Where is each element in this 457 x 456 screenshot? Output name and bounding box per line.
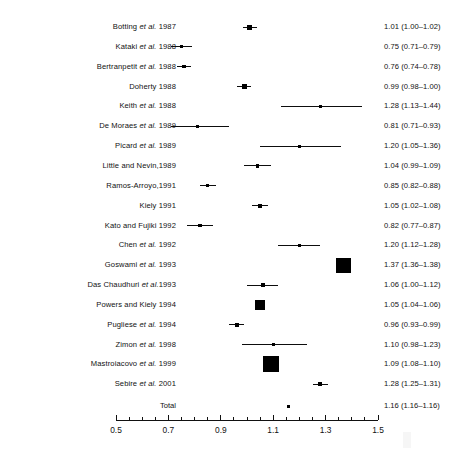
forest-row: Picard et al. 19891.20 (1.05–1.36) bbox=[0, 136, 457, 156]
study-label: Keith et al. 1988 bbox=[0, 96, 176, 116]
study-estimate-text: 0.81 (0.71–0.93) bbox=[384, 116, 441, 136]
x-axis-minor-tick bbox=[142, 417, 143, 420]
study-estimate-text: 0.99 (0.98–1.00) bbox=[384, 77, 441, 97]
x-axis-minor-tick bbox=[338, 417, 339, 420]
x-axis-line bbox=[116, 420, 378, 421]
x-axis-minor-tick bbox=[299, 417, 300, 420]
study-label: Kataki et al. 1988 bbox=[0, 37, 176, 57]
study-label: Das Chaudhuri et al.1993 bbox=[0, 275, 176, 295]
x-axis-tick-label: 1.1 bbox=[258, 425, 288, 435]
forest-row: Sebire et al. 20011.28 (1.25–1.31) bbox=[0, 374, 457, 394]
forest-row: Kataki et al. 19880.75 (0.71–0.79) bbox=[0, 37, 457, 57]
x-axis-major-tick bbox=[325, 415, 326, 420]
study-label: Mastroiacovo et al. 1999 bbox=[0, 354, 176, 374]
x-axis-minor-tick bbox=[233, 417, 234, 420]
x-axis-minor-tick bbox=[129, 417, 130, 420]
study-label: De Moraes et al. 1989 bbox=[0, 116, 176, 136]
total-estimate-text: 1.16 (1.16–1.16) bbox=[384, 396, 440, 416]
forest-row: Chen et al. 19921.20 (1.12–1.28) bbox=[0, 235, 457, 255]
x-axis-major-tick bbox=[116, 415, 117, 420]
forest-row: Das Chaudhuri et al.19931.06 (1.00–1.12) bbox=[0, 275, 457, 295]
x-axis-major-tick bbox=[273, 415, 274, 420]
x-axis-minor-tick bbox=[286, 417, 287, 420]
x-axis-tick-label: 0.7 bbox=[153, 425, 183, 435]
study-estimate-text: 1.28 (1.25–1.31) bbox=[384, 374, 441, 394]
study-label: Botting et al. 1987 bbox=[0, 17, 176, 37]
forest-row: Little and Nevin,19891.04 (0.99–1.09) bbox=[0, 156, 457, 176]
study-estimate-text: 0.82 (0.77–0.87) bbox=[384, 216, 441, 236]
x-axis-tick-label: 1.3 bbox=[311, 425, 341, 435]
forest-row: Ramos-Arroyo,19910.85 (0.82–0.88) bbox=[0, 176, 457, 196]
x-axis-tick-label: 0.9 bbox=[206, 425, 236, 435]
forest-plot: Botting et al. 19871.01 (1.00–1.02)Katak… bbox=[0, 0, 457, 456]
study-estimate-text: 1.20 (1.12–1.28) bbox=[384, 235, 441, 255]
study-label: Little and Nevin,1989 bbox=[0, 156, 176, 176]
forest-row: Mastroiacovo et al. 19991.09 (1.08–1.10) bbox=[0, 354, 457, 374]
study-label: Zimon et al. 1998 bbox=[0, 335, 176, 355]
forest-row: Kiely 19911.05 (1.02–1.08) bbox=[0, 196, 457, 216]
study-estimate-text: 0.75 (0.71–0.79) bbox=[384, 37, 441, 57]
study-label: Ramos-Arroyo,1991 bbox=[0, 176, 176, 196]
forest-row: Doherty 19880.99 (0.98–1.00) bbox=[0, 77, 457, 97]
forest-row: Bertranpetit et al. 19880.76 (0.74–0.78) bbox=[0, 57, 457, 77]
study-estimate-text: 1.37 (1.36–1.38) bbox=[384, 255, 441, 275]
forest-row: Kato and Fujiki 19920.82 (0.77–0.87) bbox=[0, 216, 457, 236]
forest-row: Keith et al. 19881.28 (1.13–1.44) bbox=[0, 96, 457, 116]
x-axis-minor-tick bbox=[155, 417, 156, 420]
total-point-estimate-marker bbox=[287, 405, 290, 408]
x-axis-minor-tick bbox=[351, 417, 352, 420]
study-label: Bertranpetit et al. 1988 bbox=[0, 57, 176, 77]
forest-row: Powers and Kiely 19941.05 (1.04–1.06) bbox=[0, 295, 457, 315]
x-axis-minor-tick bbox=[247, 417, 248, 420]
page-artifact bbox=[403, 432, 411, 448]
study-estimate-text: 1.28 (1.13–1.44) bbox=[384, 96, 441, 116]
x-axis-minor-tick bbox=[181, 417, 182, 420]
study-label: Kato and Fujiki 1992 bbox=[0, 216, 176, 236]
forest-row: Goswami et al. 19931.37 (1.36–1.38) bbox=[0, 255, 457, 275]
study-estimate-text: 1.04 (0.99–1.09) bbox=[384, 156, 441, 176]
forest-row: Botting et al. 19871.01 (1.00–1.02) bbox=[0, 17, 457, 37]
study-estimate-text: 1.09 (1.08–1.10) bbox=[384, 354, 441, 374]
x-axis-minor-tick bbox=[207, 417, 208, 420]
study-label: Powers and Kiely 1994 bbox=[0, 295, 176, 315]
x-axis-minor-tick bbox=[194, 417, 195, 420]
study-estimate-text: 1.01 (1.00–1.02) bbox=[384, 17, 441, 37]
study-estimate-text: 0.96 (0.93–0.99) bbox=[384, 315, 441, 335]
x-axis-minor-tick bbox=[312, 417, 313, 420]
study-estimate-text: 1.10 (0.98–1.23) bbox=[384, 335, 441, 355]
study-label: Picard et al. 1989 bbox=[0, 136, 176, 156]
x-axis-tick-label: 1.5 bbox=[363, 425, 393, 435]
study-label: Pugliese et al. 1994 bbox=[0, 315, 176, 335]
study-label: Goswami et al. 1993 bbox=[0, 255, 176, 275]
x-axis-minor-tick bbox=[260, 417, 261, 420]
study-estimate-text: 0.76 (0.74–0.78) bbox=[384, 57, 441, 77]
forest-row: Zimon et al. 19981.10 (0.98–1.23) bbox=[0, 335, 457, 355]
study-estimate-text: 1.05 (1.02–1.08) bbox=[384, 196, 441, 216]
study-label: Chen et al. 1992 bbox=[0, 235, 176, 255]
forest-row: Pugliese et al. 19940.96 (0.93–0.99) bbox=[0, 315, 457, 335]
study-estimate-text: 1.06 (1.00–1.12) bbox=[384, 275, 441, 295]
study-estimate-text: 0.85 (0.82–0.88) bbox=[384, 176, 441, 196]
x-axis-major-tick bbox=[220, 415, 221, 420]
total-label: Total bbox=[0, 396, 176, 416]
forest-row: De Moraes et al. 19890.81 (0.71–0.93) bbox=[0, 116, 457, 136]
x-axis-tick-label: 0.5 bbox=[101, 425, 131, 435]
study-label: Kiely 1991 bbox=[0, 196, 176, 216]
x-axis-major-tick bbox=[378, 415, 379, 420]
study-estimate-text: 1.05 (1.04–1.06) bbox=[384, 295, 441, 315]
study-label: Doherty 1988 bbox=[0, 77, 176, 97]
study-label: Sebire et al. 2001 bbox=[0, 374, 176, 394]
x-axis-major-tick bbox=[168, 415, 169, 420]
study-estimate-text: 1.20 (1.05–1.36) bbox=[384, 136, 441, 156]
x-axis-minor-tick bbox=[364, 417, 365, 420]
